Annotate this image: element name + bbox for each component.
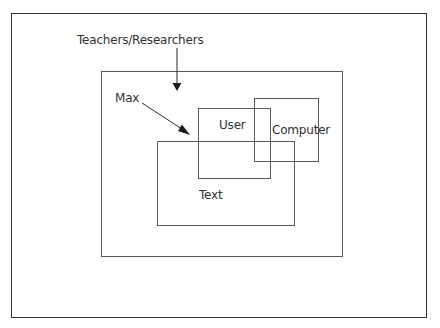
teachers-researchers-label: Teachers/Researchers [77,33,203,47]
computer-label: Computer [272,123,330,137]
user-label: User [219,118,246,132]
text-box [157,141,295,226]
text-label: Text [199,188,222,202]
max-label: Max [115,91,139,105]
